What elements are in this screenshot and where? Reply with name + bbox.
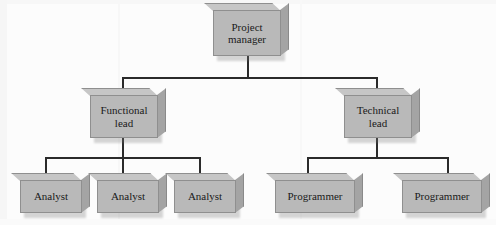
node-label-project-manager: Project manager — [213, 10, 281, 56]
node-side-face — [481, 173, 490, 213]
node-label-line2: lead — [115, 117, 133, 129]
node-side-face — [280, 3, 289, 56]
node-label-analyst-2: Analyst — [97, 180, 159, 213]
node-side-face — [354, 173, 363, 213]
node-project-manager[interactable]: Project manager — [213, 10, 281, 56]
scan-artifact-bottom — [0, 219, 496, 225]
node-side-face — [81, 173, 90, 213]
node-label-programmer-1: Programmer — [275, 180, 355, 213]
node-programmer-2[interactable]: Programmer — [402, 180, 482, 213]
org-chart-diagram: Project manager Functional lead Technica… — [0, 0, 496, 225]
node-technical-lead[interactable]: Technical lead — [344, 95, 412, 138]
node-functional-lead[interactable]: Functional lead — [90, 95, 158, 138]
node-label-line1: Functional — [100, 104, 147, 116]
node-analyst-2[interactable]: Analyst — [97, 180, 159, 213]
node-side-face — [235, 173, 244, 213]
node-label-technical-lead: Technical lead — [344, 95, 412, 138]
connector-programmer-bus — [307, 157, 448, 159]
node-programmer-1[interactable]: Programmer — [275, 180, 355, 213]
node-label-line2: lead — [369, 117, 387, 129]
node-label-functional-lead: Functional lead — [90, 95, 158, 138]
node-label-line1: Project — [231, 21, 262, 33]
connector-level2-bus — [122, 77, 378, 79]
node-side-face — [158, 173, 167, 213]
node-analyst-1[interactable]: Analyst — [20, 180, 82, 213]
node-label-analyst-3: Analyst — [174, 180, 236, 213]
node-label-programmer-2: Programmer — [402, 180, 482, 213]
node-label-line2: manager — [228, 33, 266, 45]
node-label-line1: Technical — [357, 104, 400, 116]
node-analyst-3[interactable]: Analyst — [174, 180, 236, 213]
node-label-analyst-1: Analyst — [20, 180, 82, 213]
scan-artifact-left — [0, 0, 7, 225]
